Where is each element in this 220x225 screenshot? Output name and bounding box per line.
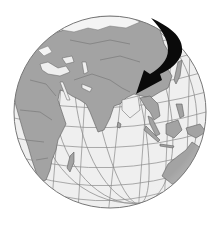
figure: Globe centered on Asia and the Indian Oc… bbox=[0, 0, 220, 225]
globe-illustration bbox=[0, 0, 220, 225]
